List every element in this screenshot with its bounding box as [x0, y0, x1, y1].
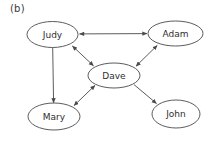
- node-mary-label: Mary: [43, 112, 66, 122]
- node-dave[interactable]: Dave: [88, 63, 140, 88]
- edge-dave-john: [134, 85, 157, 104]
- node-judy[interactable]: Judy: [27, 22, 78, 48]
- node-john-label: John: [165, 109, 186, 119]
- node-adam[interactable]: Adam: [148, 21, 203, 46]
- graph-canvas: Judy Adam Dave Mary John: [0, 0, 209, 141]
- edge-dave-mary: [74, 85, 95, 105]
- node-mary[interactable]: Mary: [28, 103, 80, 130]
- node-judy-label: Judy: [42, 30, 63, 40]
- node-adam-label: Adam: [163, 29, 189, 39]
- node-dave-label: Dave: [102, 71, 126, 81]
- node-john[interactable]: John: [152, 100, 200, 128]
- edge-dave-adam: [136, 45, 157, 66]
- edge-judy-mary: [53, 48, 54, 103]
- figure-panel: (b) Judy Adam: [0, 0, 209, 141]
- edge-judy-dave: [72, 46, 93, 66]
